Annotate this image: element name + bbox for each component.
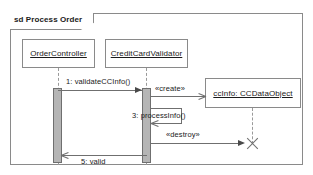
lifeline-head-order-controller[interactable]: OrderController (22, 39, 95, 68)
message-label-valid-return: 5: valid (81, 157, 106, 166)
lifeline-label-cc-data-object: ccInfo: CCDataObject (213, 89, 292, 98)
message-label-process-info: 3: processInfo() (132, 111, 186, 120)
lifeline-head-cc-data-object[interactable]: ccInfo: CCDataObject (205, 78, 301, 108)
message-line-valid-return (62, 155, 147, 156)
arrowhead-valid-return (61, 151, 68, 160)
message-label-validate-cc-info: 1: validateCCInfo() (66, 77, 130, 86)
arrowhead-create (198, 92, 205, 101)
message-label-create: «create» (155, 84, 185, 93)
activation-bar-credit-card-validator (142, 88, 151, 163)
self-message-top-process-info (151, 108, 182, 109)
message-label-destroy: «destroy» (166, 130, 200, 139)
message-line-create (151, 96, 205, 97)
arrowhead-validate-cc-info (135, 87, 142, 93)
interaction-frame-label: sd Process Order (14, 15, 82, 24)
arrowhead-destroy (238, 140, 245, 146)
message-line-destroy (151, 143, 243, 144)
lifeline-head-credit-card-validator[interactable]: CreditCardValidator (105, 39, 188, 68)
sequence-diagram-canvas: sd Process Order OrderController CreditC… (0, 0, 313, 175)
message-line-validate-cc-info (58, 90, 142, 91)
lifeline-label-order-controller: OrderController (30, 49, 87, 58)
destruction-marker-cc-data-object (245, 137, 258, 150)
lifeline-label-credit-card-validator: CreditCardValidator (111, 49, 183, 58)
